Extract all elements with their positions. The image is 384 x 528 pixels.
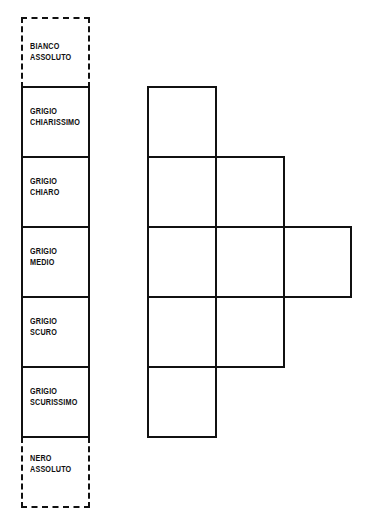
scale-item-grigio-medio: GRIGIOMEDIO [21, 226, 90, 298]
scale-label: GRIGIOCHIARISSIMO [30, 106, 80, 128]
label-line1: GRIGIO [30, 106, 57, 116]
grid-cell [147, 86, 217, 158]
label-line1: GRIGIO [30, 316, 57, 326]
grid-cell [215, 226, 285, 298]
label-line2: ASSOLUTO [30, 464, 71, 474]
scale-label: GRIGIOSCURISSIMO [30, 386, 77, 408]
scale-label: GRIGIOMEDIO [30, 246, 57, 268]
label-line1: BIANCO [30, 41, 60, 51]
grid-cell [147, 156, 217, 228]
scale-item-grigio-chiarissimo: GRIGIOCHIARISSIMO [21, 86, 90, 158]
scale-item-grigio-chiaro: GRIGIOCHIARO [21, 156, 90, 228]
label-line2: MEDIO [30, 257, 55, 267]
label-line1: GRIGIO [30, 246, 57, 256]
grid-cell [147, 296, 217, 368]
label-line2: CHIARO [30, 187, 60, 197]
scale-label: GRIGIOCHIARO [30, 176, 60, 198]
grid-cell [147, 226, 217, 298]
grid-cell [147, 366, 217, 438]
scale-label: GRIGIOSCURO [30, 316, 57, 338]
scale-label: BIANCOASSOLUTO [30, 41, 71, 63]
scale-item-grigio-scuro: GRIGIOSCURO [21, 296, 90, 368]
label-line1: GRIGIO [30, 386, 57, 396]
scale-item-nero-assoluto: NEROASSOLUTO [21, 437, 90, 508]
scale-item-bianco-assoluto: BIANCOASSOLUTO [21, 17, 90, 88]
grid-cell [215, 156, 285, 228]
scale-item-grigio-scurissimo: GRIGIOSCURISSIMO [21, 366, 90, 438]
grid-cell [283, 226, 352, 298]
label-line1: GRIGIO [30, 176, 57, 186]
label-line2: SCURISSIMO [30, 397, 77, 407]
label-line2: ASSOLUTO [30, 52, 71, 62]
grid-cell [215, 296, 285, 368]
scale-label: NEROASSOLUTO [30, 453, 71, 475]
label-line2: CHIARISSIMO [30, 117, 80, 127]
label-line1: NERO [30, 453, 52, 463]
label-line2: SCURO [30, 327, 57, 337]
